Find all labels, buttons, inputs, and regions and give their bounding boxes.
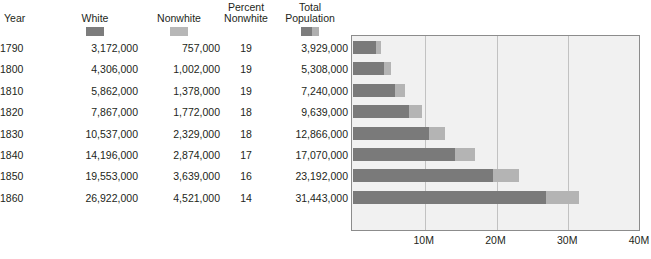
cell-year: 1810 — [0, 81, 52, 102]
table-row: 18105,862,0001,378,000197,240,000 — [0, 81, 348, 102]
total-series-swatch — [301, 27, 319, 36]
cell-percent-nonwhite: 14 — [220, 188, 272, 209]
nonwhite-series-swatch — [170, 27, 188, 36]
cell-percent-nonwhite: 19 — [220, 38, 272, 59]
cell-white: 10,537,000 — [52, 124, 138, 145]
cell-white: 3,172,000 — [52, 38, 138, 59]
cell-percent-nonwhite: 19 — [220, 59, 272, 80]
bar-segment-nonwhite-1790 — [376, 41, 381, 54]
population-table-and-chart: Year White Nonwhite Percent Nonwhite Tot… — [0, 0, 651, 259]
bar-segment-white-1820 — [353, 105, 409, 118]
cell-total-population: 3,929,000 — [272, 38, 348, 59]
cell-percent-nonwhite: 16 — [220, 166, 272, 187]
cell-year: 1820 — [0, 102, 52, 123]
white-series-swatch — [86, 27, 104, 36]
table-row: 18004,306,0001,002,000195,308,000 — [0, 59, 348, 80]
cell-year: 1830 — [0, 124, 52, 145]
column-header-nonwhite: Nonwhite — [138, 0, 220, 24]
cell-total-population: 31,443,000 — [272, 188, 348, 209]
x-tick-label-10M: 10M — [414, 234, 434, 246]
cell-year: 1840 — [0, 145, 52, 166]
x-tick-label-30M: 30M — [557, 234, 577, 246]
bar-segment-nonwhite-1860 — [546, 191, 578, 204]
table-row: 185019,553,0003,639,0001623,192,000 — [0, 166, 348, 187]
table-row: 18207,867,0001,772,000189,639,000 — [0, 102, 348, 123]
table-row: 186026,922,0004,521,0001431,443,000 — [0, 188, 348, 209]
bar-segment-white-1810 — [353, 84, 395, 97]
cell-total-population: 12,866,000 — [272, 124, 348, 145]
legend-swatch-cell-total — [272, 24, 348, 38]
cell-total-population: 23,192,000 — [272, 166, 348, 187]
cell-nonwhite: 2,874,000 — [138, 145, 220, 166]
legend-swatch-cell-nonwhite — [138, 24, 220, 38]
x-axis-tick-labels: 10M20M30M40M — [351, 234, 651, 250]
stacked-bar-chart — [351, 35, 640, 231]
bar-segment-nonwhite-1830 — [429, 127, 446, 140]
cell-year: 1790 — [0, 38, 52, 59]
cell-year: 1860 — [0, 188, 52, 209]
cell-nonwhite: 1,772,000 — [138, 102, 220, 123]
data-table-panel: Year White Nonwhite Percent Nonwhite Tot… — [0, 0, 350, 259]
cell-total-population: 9,639,000 — [272, 102, 348, 123]
cell-white: 7,867,000 — [52, 102, 138, 123]
cell-year: 1800 — [0, 59, 52, 80]
cell-total-population: 5,308,000 — [272, 59, 348, 80]
cell-white: 19,553,000 — [52, 166, 138, 187]
cell-percent-nonwhite: 17 — [220, 145, 272, 166]
bar-segment-white-1790 — [353, 41, 376, 54]
bar-segment-nonwhite-1820 — [409, 105, 422, 118]
cell-white: 5,862,000 — [52, 81, 138, 102]
cell-white: 26,922,000 — [52, 188, 138, 209]
table-row: 183010,537,0002,329,0001812,866,000 — [0, 124, 348, 145]
cell-year: 1850 — [0, 166, 52, 187]
bar-segment-nonwhite-1800 — [384, 62, 391, 75]
legend-swatch-row — [0, 24, 348, 38]
cell-total-population: 17,070,000 — [272, 145, 348, 166]
cell-nonwhite: 2,329,000 — [138, 124, 220, 145]
cell-white: 14,196,000 — [52, 145, 138, 166]
cell-nonwhite: 4,521,000 — [138, 188, 220, 209]
table-row: 17903,172,000757,000193,929,000 — [0, 38, 348, 59]
legend-swatch-cell-year — [0, 24, 52, 38]
table-body: 17903,172,000757,000193,929,00018004,306… — [0, 38, 348, 209]
column-header-total-population: Total Population — [272, 0, 348, 24]
column-header-white: White — [52, 0, 138, 24]
cell-nonwhite: 1,378,000 — [138, 81, 220, 102]
table-row: 184014,196,0002,874,0001717,070,000 — [0, 145, 348, 166]
cell-nonwhite: 3,639,000 — [138, 166, 220, 187]
column-header-year: Year — [0, 0, 52, 24]
cell-percent-nonwhite: 18 — [220, 102, 272, 123]
population-data-table: Year White Nonwhite Percent Nonwhite Tot… — [0, 0, 348, 209]
cell-nonwhite: 757,000 — [138, 38, 220, 59]
bar-segment-white-1840 — [353, 148, 455, 161]
bar-segment-nonwhite-1810 — [395, 84, 405, 97]
cell-nonwhite: 1,002,000 — [138, 59, 220, 80]
bar-segment-nonwhite-1850 — [493, 169, 519, 182]
plot-area — [351, 35, 640, 231]
column-header-total-population-line2: Population — [285, 12, 335, 24]
x-tick-label-20M: 20M — [485, 234, 505, 246]
cell-white: 4,306,000 — [52, 59, 138, 80]
bar-segment-nonwhite-1840 — [455, 148, 476, 161]
legend-swatch-cell-percent — [220, 24, 272, 38]
bar-segment-white-1860 — [353, 191, 546, 204]
table-header: Year White Nonwhite Percent Nonwhite Tot… — [0, 0, 348, 38]
x-tick-label-40M: 40M — [629, 234, 649, 246]
column-header-percent-nonwhite-line2: Nonwhite — [224, 12, 268, 24]
cell-percent-nonwhite: 19 — [220, 81, 272, 102]
cell-percent-nonwhite: 18 — [220, 124, 272, 145]
legend-swatch-cell-white — [52, 24, 138, 38]
cell-total-population: 7,240,000 — [272, 81, 348, 102]
bar-segment-white-1850 — [353, 169, 493, 182]
bar-segment-white-1830 — [353, 127, 429, 140]
table-header-row: Year White Nonwhite Percent Nonwhite Tot… — [0, 0, 348, 24]
column-header-percent-nonwhite: Percent Nonwhite — [220, 0, 272, 24]
bar-segment-white-1800 — [353, 62, 384, 75]
